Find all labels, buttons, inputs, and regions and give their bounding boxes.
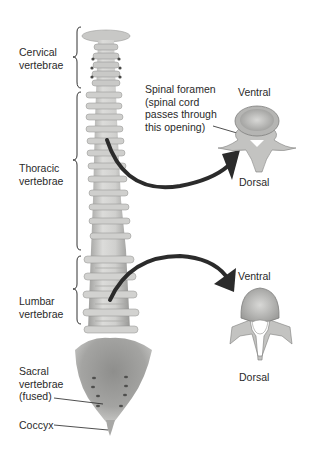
callout-line2: (spinal cord (145, 96, 217, 109)
thoracic-ventral-label: Ventral (238, 86, 271, 99)
sacral-label: Sacral vertebrae (fused) (19, 365, 63, 403)
lumbar-brace (73, 256, 81, 324)
thoracic-label: Thoracic vertebrae (19, 162, 63, 187)
spinal-foramen-callout: Spinal foramen (spinal cord passes throu… (145, 83, 217, 133)
thoracic-brace (73, 92, 81, 250)
vertebral-column (75, 30, 152, 436)
cervical-label: Cervical vertebrae (19, 46, 63, 71)
lumbar-vertebra-detail (230, 288, 292, 360)
thoracic-label-line2: vertebrae (19, 175, 63, 188)
lumbar-dorsal-label: Dorsal (239, 371, 269, 384)
sacrum (75, 338, 152, 422)
cervical-brace (73, 27, 81, 88)
lumbar-label-line1: Lumbar (19, 295, 63, 308)
cervical-label-line1: Cervical (19, 46, 63, 59)
lumbar-ventral-label: Ventral (238, 270, 271, 283)
sacral-label-line1: Sacral (19, 365, 63, 378)
coccyx-label-line1: Coccyx (19, 419, 53, 432)
callout-line3: passes through (145, 108, 217, 121)
lumbar-label: Lumbar vertebrae (19, 295, 63, 320)
callout-line1: Spinal foramen (145, 83, 217, 96)
sacral-label-line3: (fused) (19, 390, 63, 403)
lumbar-label-line2: vertebrae (19, 308, 63, 321)
thoracic-dorsal-label: Dorsal (239, 176, 269, 189)
callout-line4: this opening) (145, 121, 217, 134)
cervical-label-line2: vertebrae (19, 59, 63, 72)
coccyx-label: Coccyx (19, 419, 53, 432)
coccyx (106, 420, 115, 436)
thoracic-label-line1: Thoracic (19, 162, 63, 175)
sacral-label-line2: vertebrae (19, 378, 63, 391)
